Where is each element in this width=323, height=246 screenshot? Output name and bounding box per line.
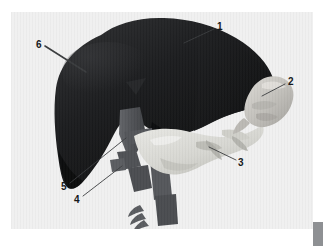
anatomy-render <box>11 12 313 229</box>
pale-organ-group <box>134 125 264 175</box>
callout-label-2: 2 <box>288 77 294 87</box>
callout-label-6: 6 <box>36 40 42 50</box>
callout-label-4: 4 <box>74 195 80 205</box>
figure-root: 1 2 3 4 5 6 <box>0 0 323 246</box>
callout-label-5: 5 <box>61 182 67 192</box>
callout-label-1: 1 <box>217 22 223 32</box>
callout-label-3: 3 <box>238 158 244 168</box>
page-edge-strip <box>313 222 323 246</box>
anatomy-image-plate <box>11 12 313 229</box>
